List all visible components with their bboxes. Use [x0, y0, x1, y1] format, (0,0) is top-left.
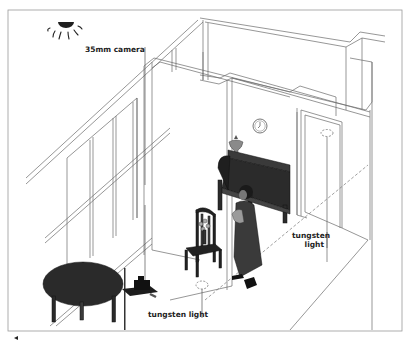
camera-on-tripod — [122, 268, 158, 330]
room-diagram: 35mm camera tungsten light tungsten ligh… — [0, 0, 407, 361]
label-35mm-camera: 35mm camera — [85, 46, 145, 55]
label-tungsten-light-bottom: tungsten light — [148, 311, 208, 320]
round-table — [43, 262, 123, 322]
room-illustration — [0, 0, 407, 361]
label-tungsten-light-right: tungsten light — [292, 232, 324, 249]
vase-icon — [229, 135, 243, 153]
wall-clock-icon — [253, 119, 267, 133]
corner-mark-icon — [14, 336, 18, 340]
sun-icon — [48, 22, 82, 39]
chair-with-flowers — [185, 208, 222, 277]
label-line-2: light — [292, 241, 324, 250]
top-wall-edge — [200, 18, 385, 42]
